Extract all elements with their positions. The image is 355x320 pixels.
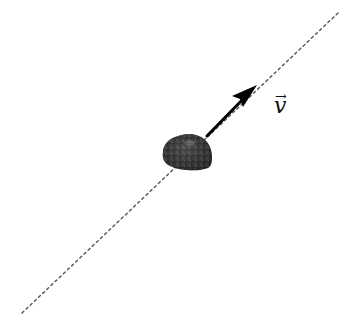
diagram-canvas: → v — [0, 0, 355, 320]
vector-arrow-accent-icon: → — [275, 89, 287, 103]
velocity-arrow — [207, 85, 257, 136]
velocity-label: → v — [274, 95, 286, 117]
